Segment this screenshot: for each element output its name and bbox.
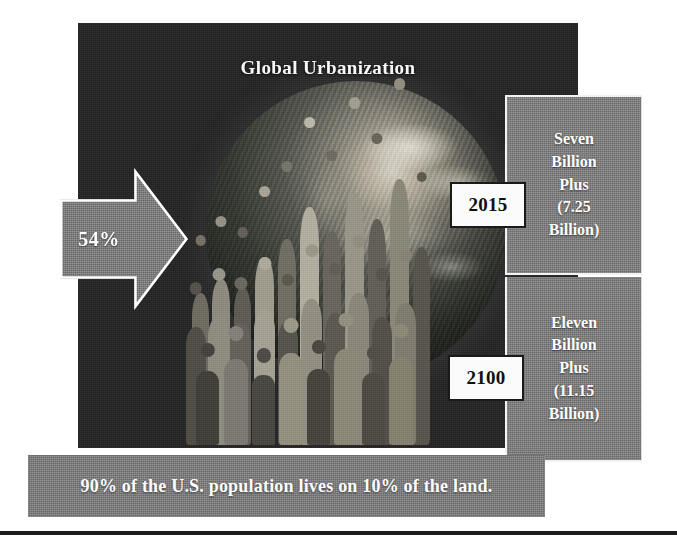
caption-banner: 90% of the U.S. population lives on 10% … bbox=[28, 455, 545, 517]
person-figure bbox=[196, 371, 219, 445]
stat-panel-2100-text: Eleven Billion Plus (11.15 Billion) bbox=[549, 312, 600, 426]
stat-panel-2100: Eleven Billion Plus (11.15 Billion) bbox=[505, 277, 642, 462]
stat-panel-2015-text: Seven Billion Plus (7.25 Billion) bbox=[549, 128, 600, 242]
caption-text: 90% of the U.S. population lives on 10% … bbox=[81, 476, 493, 497]
urban-share-arrow: 54% bbox=[60, 168, 188, 310]
page-title: Global Urbanization bbox=[78, 57, 578, 79]
arrow-percent-label: 54% bbox=[66, 228, 132, 251]
infographic-canvas: Global Urbanization 54% Seven Billion Pl… bbox=[0, 0, 677, 545]
person-figure bbox=[252, 375, 275, 445]
bottom-divider bbox=[0, 531, 677, 535]
person-figure bbox=[362, 373, 385, 445]
year-label-2100: 2100 bbox=[448, 355, 524, 401]
year-label-2015: 2015 bbox=[450, 182, 526, 228]
earth-globe-image bbox=[206, 81, 506, 381]
person-figure bbox=[186, 327, 206, 445]
